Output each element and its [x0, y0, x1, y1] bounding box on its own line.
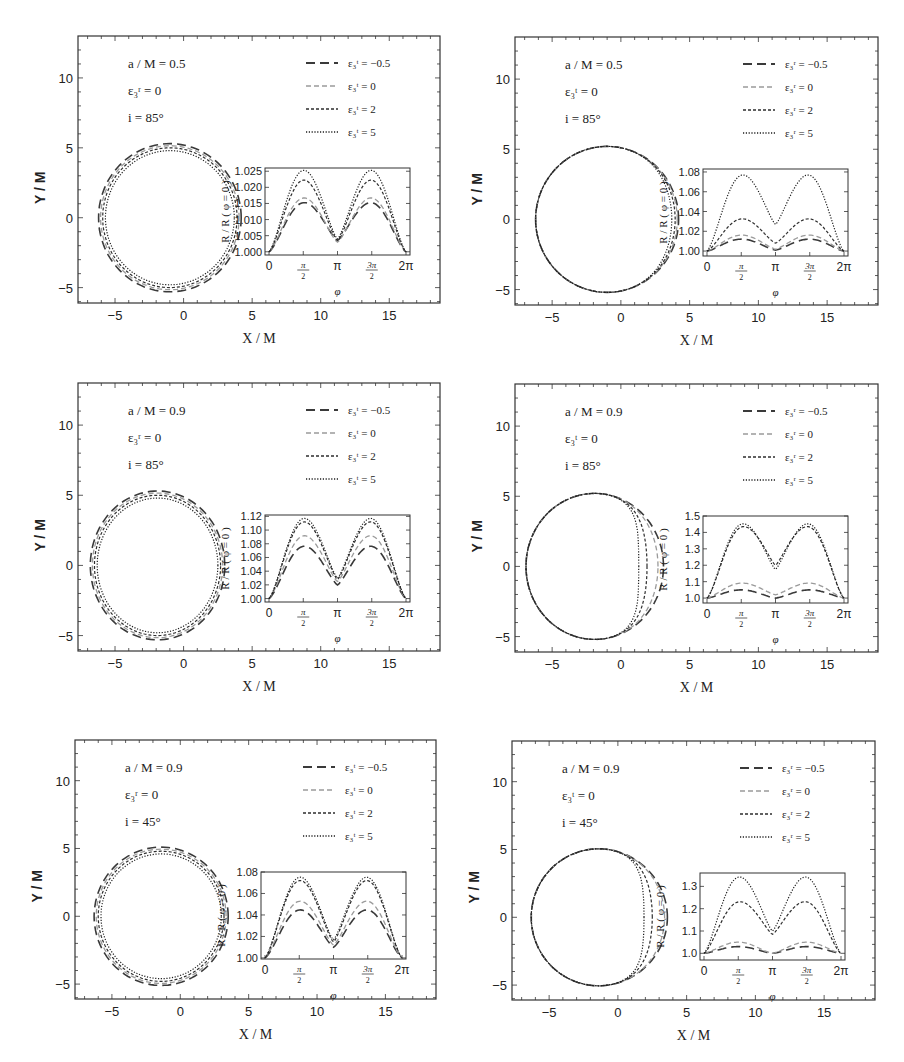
legend-label: ε₃ᵗ = 5	[348, 473, 376, 485]
inset-y-tick: 1.020	[234, 181, 262, 193]
x-tick-label: 5	[249, 308, 256, 323]
shadow-curve	[105, 151, 234, 285]
inset-y-tick: 1.06	[241, 551, 262, 563]
legend-label: ε₃ʳ = 5	[785, 474, 814, 486]
inset-x-tick: 0	[266, 606, 273, 620]
inset-x-tick: 2π	[837, 260, 852, 274]
annotation: a / M = 0.9	[562, 761, 620, 776]
annotation: ε₃ᵗ = 0	[565, 431, 598, 446]
y-tick-label: 10	[496, 72, 510, 87]
y-tick-label: 5	[503, 489, 510, 504]
shadow-curve	[103, 148, 237, 288]
panel-top-right: −5051015−50510X / MY / Ma / M = 0.5ε₃ᵗ =…	[469, 37, 878, 348]
inset-y-tick: 1.1	[682, 925, 697, 937]
y-tick-label: 5	[503, 142, 510, 157]
svg-text:2: 2	[370, 619, 374, 628]
inset-y-tick: 1.3	[685, 543, 700, 555]
x-tick-label: 0	[177, 1004, 184, 1019]
inset-y-label: R / R ( φ = 0 )	[654, 885, 667, 948]
annotation: i = 85°	[565, 458, 601, 473]
annotation: a / M = 0.5	[128, 56, 186, 71]
y-tick-label: 10	[59, 418, 73, 433]
x-tick-label: −5	[105, 1004, 120, 1019]
inset-y-tick: 1.06	[679, 186, 700, 198]
legend-label: ε₃ʳ = 5	[785, 127, 814, 139]
x-tick-label: 0	[617, 657, 624, 672]
legend-label: ε₃ᵗ = 2	[348, 450, 376, 462]
shadow-curve	[526, 493, 664, 639]
inset-x-tick: π	[739, 261, 744, 271]
inset-y-tick: 1.04	[679, 206, 700, 218]
inset-plot: 1.001.021.041.061.080π2π3π22πφR / R ( φ …	[657, 166, 851, 298]
legend-label: ε₃ᵗ = 5	[345, 830, 373, 842]
x-tick-label: 10	[310, 1004, 324, 1019]
x-axis-label: X / M	[242, 331, 276, 346]
annotation: i = 85°	[565, 111, 601, 126]
legend-label: ε₃ʳ = 2	[782, 808, 810, 820]
annotation: ε₃ᵗ = 0	[562, 788, 595, 803]
inset-x-tick: π	[333, 606, 341, 620]
x-tick-label: 5	[245, 1004, 252, 1019]
svg-text:2: 2	[370, 272, 374, 281]
x-tick-label: 5	[686, 657, 693, 672]
inset-y-label: R / R ( φ = 0 )	[219, 527, 232, 590]
svg-text:2: 2	[297, 976, 301, 985]
inset-x-tick: π	[736, 965, 741, 975]
x-axis-label: X / M	[239, 1027, 273, 1042]
shadow-curve	[101, 854, 221, 979]
inset-y-tick: 1.3	[682, 880, 697, 892]
inset-x-tick: 0	[701, 964, 708, 978]
legend-label: ε₃ʳ = 2	[785, 451, 813, 463]
annotation: i = 45°	[562, 815, 598, 830]
inset-x-label: φ	[772, 633, 778, 645]
inset-y-tick: 1.010	[234, 214, 262, 226]
inset-y-tick: 1.10	[241, 524, 262, 536]
legend-label: ε₃ʳ = −0.5	[782, 762, 825, 774]
legend-label: ε₃ʳ = −0.5	[785, 405, 828, 417]
inset-y-tick: 1.08	[679, 166, 700, 178]
y-tick-label: 0	[66, 558, 73, 573]
inset-plot: 1.001.021.041.061.081.101.120π2π3π22πφR …	[219, 510, 413, 644]
annotation: ε₃ʳ = 0	[125, 787, 158, 802]
svg-text:2: 2	[739, 273, 743, 282]
inset-y-tick: 1.00	[679, 245, 700, 257]
inset-x-tick: π	[739, 608, 744, 618]
inset-y-tick: 1.04	[241, 565, 262, 577]
legend-label: ε₃ᵗ = 2	[348, 103, 376, 115]
y-tick-label: 0	[66, 211, 73, 226]
x-tick-label: 15	[817, 1005, 831, 1020]
inset-x-tick: π	[329, 963, 337, 977]
y-axis-label: Y / M	[29, 870, 45, 902]
inset-x-tick: π	[333, 259, 341, 273]
shadow-curve	[526, 493, 647, 639]
inset-y-tick: 1.4	[685, 526, 700, 538]
shadow-curve	[526, 493, 639, 639]
y-tick-label: −5	[495, 630, 510, 645]
panel-top-left: −5051015−50510X / MY / Ma / M = 0.5ε₃ʳ =…	[32, 36, 440, 346]
y-axis-label: Y / M	[466, 871, 482, 903]
inset-x-label: φ	[334, 632, 340, 644]
y-tick-label: 5	[66, 488, 73, 503]
inset-x-tick: π	[301, 607, 306, 617]
y-tick-label: −5	[495, 283, 510, 298]
inset-plot: 1.01.11.21.31.41.50π2π3π22πφR / R ( φ = …	[657, 510, 851, 645]
inset-y-tick: 1.06	[237, 887, 258, 899]
y-tick-label: 10	[496, 419, 510, 434]
inset-y-tick: 1.08	[237, 866, 258, 878]
shadow-curve	[97, 498, 218, 633]
y-tick-label: 10	[56, 774, 70, 789]
inset-y-tick: 1.5	[685, 510, 700, 522]
x-tick-label: −5	[108, 308, 123, 323]
inset-x-tick: π	[301, 260, 306, 270]
inset-y-tick: 1.02	[237, 930, 258, 942]
y-tick-label: −5	[58, 281, 73, 296]
inset-y-tick: 1.0	[685, 592, 700, 604]
inset-x-tick: 2π	[395, 963, 410, 977]
inset-y-tick: 1.2	[685, 559, 700, 571]
inset-y-tick: 1.1	[685, 576, 700, 588]
x-tick-label: 15	[378, 1004, 392, 1019]
x-tick-label: 0	[180, 656, 187, 671]
inset-y-tick: 1.00	[241, 593, 262, 605]
x-axis-label: X / M	[242, 679, 276, 694]
legend-label: ε₃ᵗ = −0.5	[348, 404, 391, 416]
